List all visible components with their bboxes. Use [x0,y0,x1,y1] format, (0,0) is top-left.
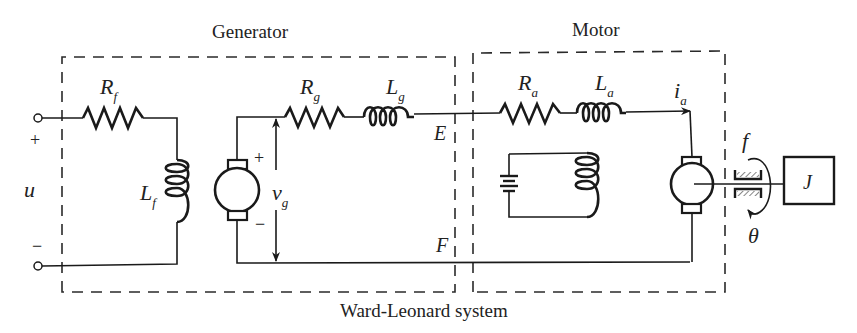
label-theta: θ [748,223,759,248]
battery-wire-bottom [509,191,587,217]
label-Ra: Ra [517,70,538,100]
inductor-Lg [364,107,414,125]
ia-arrow [626,111,690,112]
node-E: E [433,122,446,144]
motor-field-wire-top [509,153,587,154]
label-vg: vg [272,180,289,210]
bottom-return-wire [237,220,690,263]
input-label-u: u [24,177,35,202]
inductor-La [577,103,626,121]
label-Rf: Rf [99,74,119,104]
label-La: La [594,70,614,100]
resistor-Ra [500,104,560,123]
input-minus-sign: − [32,236,42,256]
link-wire-E [414,113,500,114]
rotation-arc [748,159,770,214]
resistor-Rf [83,108,143,128]
resistor-Rg [285,108,344,127]
bearing-hatch-bottom [737,191,759,196]
node-F: F [435,234,449,256]
label-ia: ia [674,78,687,108]
inductor-motor-field [576,153,599,217]
motor-brush-bottom [682,204,701,213]
vg-minus-sign: − [255,214,265,234]
input-terminal-minus [34,262,42,270]
input-plus-sign: + [30,130,40,150]
inductor-Lf [166,160,189,222]
label-Rg: Rg [299,74,320,104]
generator-icon [215,168,259,212]
ward-leonard-diagram: Generator Motor Ward-Leonard system + − … [0,0,857,333]
label-Lg: Lg [385,74,405,104]
label-friction: f [742,128,751,153]
system-title: Ward-Leonard system [340,300,508,321]
vg-plus-sign: + [254,148,264,168]
motor-title: Motor [572,19,620,40]
motor-wire-top [690,111,692,157]
field-wire-top-right [143,118,177,160]
label-inertia: J [803,171,813,193]
bearing-hatch-top [737,172,759,177]
label-Lf: Lf [139,180,158,210]
input-terminal-plus [34,114,42,122]
gen-brush-bottom [228,211,247,220]
generator-title: Generator [212,21,289,42]
